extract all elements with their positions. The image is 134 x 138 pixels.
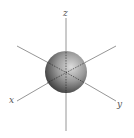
y-axis: [85, 83, 116, 101]
orbital-svg: [0, 0, 134, 138]
neg-x-axis: [86, 46, 116, 62]
neg-y-axis: [17, 46, 47, 62]
x-axis: [17, 83, 48, 101]
x-axis-label: x: [9, 96, 14, 105]
s-orbital-diagram: z x y: [0, 0, 134, 138]
y-axis-label: y: [117, 100, 122, 109]
z-axis-label: z: [63, 9, 68, 18]
